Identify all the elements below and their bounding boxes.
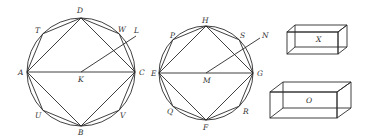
circle-figure-2: H P S N E M G Q R F xyxy=(150,16,269,132)
prism-O: O xyxy=(270,82,351,118)
circle-figure-1: D T W L A K C U V B xyxy=(17,6,145,137)
label-O: O xyxy=(306,96,312,105)
label-M: M xyxy=(202,76,211,85)
prism-X: X xyxy=(287,25,347,54)
label-F: F xyxy=(202,123,209,132)
prism-X-hidden-edge-3 xyxy=(287,47,295,54)
prism-O-side xyxy=(337,82,351,118)
label-S: S xyxy=(240,31,245,40)
label-D: D xyxy=(76,6,83,15)
label-P: P xyxy=(169,31,176,40)
label-N: N xyxy=(261,31,269,40)
label-T: T xyxy=(35,26,41,35)
label-G: G xyxy=(257,69,263,78)
prism-O-front xyxy=(270,92,337,118)
label-L: L xyxy=(133,26,139,35)
label-K: K xyxy=(77,75,84,84)
label-H: H xyxy=(201,16,209,25)
prism-X-top xyxy=(287,25,347,32)
label-Q: Q xyxy=(167,107,173,116)
prism-X-side xyxy=(338,25,347,54)
label-X: X xyxy=(315,35,322,44)
geometry-diagram: D T W L A K C U V B H P S N E M G Q R F xyxy=(0,0,371,140)
label-E: E xyxy=(150,69,157,78)
label-C: C xyxy=(139,68,145,77)
label-A: A xyxy=(17,68,24,77)
label-R: R xyxy=(242,107,249,116)
label-B: B xyxy=(77,128,84,137)
label-U: U xyxy=(35,111,42,120)
label-V: V xyxy=(120,111,127,120)
ray-MN xyxy=(206,38,260,73)
prism-O-hidden-edge-3 xyxy=(270,108,283,118)
label-W: W xyxy=(118,25,127,34)
